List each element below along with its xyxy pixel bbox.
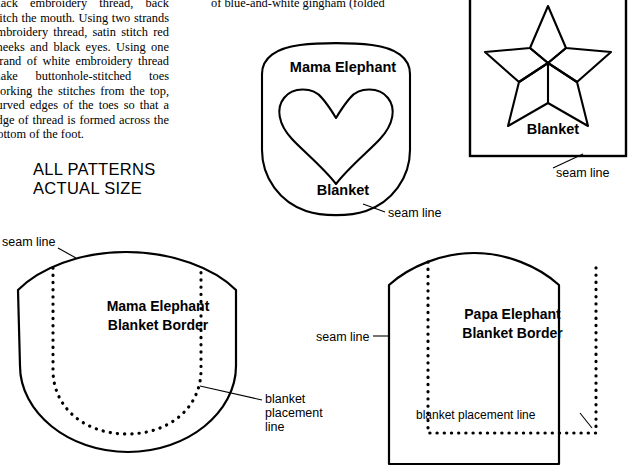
star-seam-divisions <box>519 48 577 103</box>
leader-blanket-placement-papa <box>580 413 592 428</box>
leader-blanket-placement-mama <box>200 386 262 400</box>
mama-blanket-placement-line <box>53 268 201 434</box>
label-mama-blanket: Blanket <box>268 182 418 199</box>
papa-border-outline <box>389 253 559 464</box>
leader-seam-line-top-left <box>58 248 76 258</box>
pattern-sheet-page: black embroidery thread, back stitch the… <box>0 0 641 476</box>
leader-seam-line-mama-blanket <box>363 204 385 212</box>
instructions-left-text: black embroidery thread, back stitch the… <box>0 0 169 142</box>
five-point-star <box>485 6 611 126</box>
instructions-middle-text: of blue-and-white gingham (folded <box>211 0 407 11</box>
annotation-seam-line-star: seam line <box>556 166 610 180</box>
instructions-left-column: black embroidery thread, back stitch the… <box>0 0 169 142</box>
annotation-seam-line-mama-border: seam line <box>2 235 56 249</box>
annotation-blanket-placement-line-mama: blanket placement line <box>265 392 323 434</box>
annotation-blanket-placement-line-papa: blanket placement line <box>416 408 535 422</box>
annotation-seam-line-mama-blanket: seam line <box>388 206 442 220</box>
mama-border-outline <box>18 252 236 452</box>
instructions-middle-column: of blue-and-white gingham (folded <box>211 0 407 11</box>
label-papa-elephant-blanket-border: Papa Elephant Blanket Border <box>420 305 605 343</box>
label-mama-elephant: Mama Elephant <box>268 59 418 76</box>
label-mama-elephant-blanket-border: Mama Elephant Blanket Border <box>58 297 258 335</box>
annotation-seam-line-papa-border: seam line <box>316 330 370 344</box>
all-patterns-actual-size-heading: ALL PATTERNS ACTUAL SIZE <box>33 160 156 198</box>
label-star-blanket: Blanket <box>498 121 608 138</box>
heart-outline <box>279 90 392 184</box>
